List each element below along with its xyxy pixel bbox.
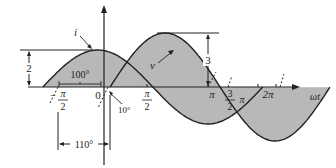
svg-text:2: 2 xyxy=(61,101,66,112)
voltage-phase-label: 10° xyxy=(118,105,131,115)
tick-two-pi-label: 2π xyxy=(262,88,274,100)
arrow-up-icon xyxy=(206,34,210,39)
x-axis-label: ωt xyxy=(310,91,320,102)
voltage-label-v: v xyxy=(150,59,155,71)
svg-text:2: 2 xyxy=(145,101,150,112)
phase-difference-label: 110° xyxy=(75,139,94,150)
svg-text:π: π xyxy=(60,88,66,99)
svg-text:−: − xyxy=(50,90,56,101)
current-amplitude-label: 2 xyxy=(26,62,32,74)
arrow-down-icon xyxy=(27,81,31,86)
arrow-up-icon xyxy=(27,51,31,56)
svg-text:2: 2 xyxy=(228,101,233,112)
svg-text:π: π xyxy=(144,88,150,99)
tick-neg-pi-over-2: − π 2 xyxy=(50,88,68,112)
current-label-i: i xyxy=(74,26,77,38)
tick-origin-label: 0 xyxy=(95,89,101,101)
y-axis-arrow-icon xyxy=(101,5,107,13)
current-dashed-extension-right xyxy=(228,76,232,87)
arrow-right-icon xyxy=(104,142,109,146)
arrow-left-icon xyxy=(59,142,64,146)
tick-pi-over-2: π 2 xyxy=(142,88,152,112)
svg-text:3: 3 xyxy=(228,88,233,99)
voltage-amplitude-label: 3 xyxy=(205,54,211,66)
voltage-dashed-extension-right xyxy=(280,74,284,87)
waveform-diagram: 2 3 i v 100° 10° 110° 0 − π 2 π xyxy=(0,0,336,168)
tick-pi-label: π xyxy=(209,88,215,100)
current-phase-label: 100° xyxy=(71,69,90,80)
